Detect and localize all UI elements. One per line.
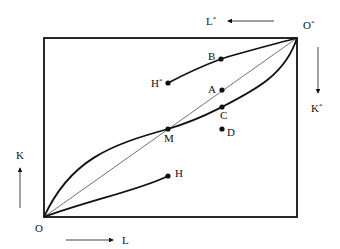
- label-c: C: [220, 109, 227, 121]
- label-h-star: H*: [151, 77, 163, 89]
- label-b: B: [208, 50, 215, 62]
- foreign-path-curve: [168, 38, 297, 83]
- point-a: [219, 87, 224, 92]
- edgeworth-box-diagram: B H* A C M D H O O* L* K* K L: [0, 0, 340, 249]
- point-b: [218, 56, 223, 61]
- foreign-capital-label: K*: [311, 102, 323, 114]
- point-h: [165, 173, 170, 178]
- label-a: A: [208, 83, 216, 95]
- label-h: H: [175, 167, 183, 179]
- label-d: D: [227, 126, 235, 138]
- foreign-labor-label: L*: [206, 15, 217, 27]
- origin-foreign-label: O*: [303, 19, 315, 31]
- label-m: M: [164, 132, 174, 144]
- point-h-star: [165, 80, 170, 85]
- point-m: [165, 126, 170, 131]
- home-capital-label: K: [16, 149, 24, 161]
- home-path-curve: [44, 176, 168, 217]
- origin-home-label: O: [35, 222, 43, 234]
- home-labor-label: L: [122, 234, 129, 246]
- point-d: [219, 126, 224, 131]
